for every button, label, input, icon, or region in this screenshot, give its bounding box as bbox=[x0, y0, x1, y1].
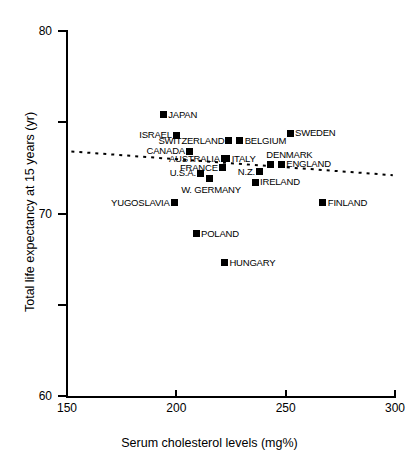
y-tick-70 bbox=[58, 213, 67, 215]
x-tick-200 bbox=[175, 390, 177, 398]
data-point-marker bbox=[160, 111, 167, 118]
data-point-label: HUNGARY bbox=[229, 258, 275, 268]
x-tick-label-250: 250 bbox=[266, 402, 306, 414]
data-point-label: SWEDEN bbox=[295, 128, 336, 138]
data-point-marker bbox=[256, 168, 263, 175]
data-point-marker bbox=[278, 161, 285, 168]
x-axis-title: Serum cholesterol levels (mg%) bbox=[0, 436, 419, 450]
data-point-label: FINLAND bbox=[328, 198, 367, 208]
data-point-label: N.Z. bbox=[238, 167, 255, 177]
y-tick-label-60: 60 bbox=[24, 390, 52, 402]
data-point-marker bbox=[171, 199, 178, 206]
data-point-marker bbox=[236, 137, 243, 144]
y-tick-minor-75 bbox=[58, 121, 67, 123]
data-point-label: SWITZERLAND bbox=[158, 136, 224, 146]
data-point-marker bbox=[219, 164, 226, 171]
x-tick-150 bbox=[66, 390, 68, 398]
data-point-label: U.S.A. bbox=[170, 168, 196, 178]
x-tick-label-300: 300 bbox=[375, 402, 415, 414]
x-tick-300 bbox=[394, 390, 396, 398]
x-axis-line bbox=[66, 396, 396, 398]
data-point-label: ENGLAND bbox=[286, 159, 331, 169]
data-point-marker bbox=[252, 179, 259, 186]
data-point-label: POLAND bbox=[201, 229, 239, 239]
x-tick-label-150: 150 bbox=[47, 402, 87, 414]
data-point-marker bbox=[223, 155, 230, 162]
data-point-label: JAPAN bbox=[168, 110, 197, 120]
data-point-marker bbox=[206, 175, 213, 182]
data-point-marker bbox=[319, 199, 326, 206]
data-point-marker bbox=[221, 259, 228, 266]
y-tick-label-80: 80 bbox=[24, 25, 52, 37]
data-point-marker bbox=[193, 230, 200, 237]
data-point-marker bbox=[197, 170, 204, 177]
y-tick-80 bbox=[58, 30, 67, 32]
y-tick-minor-65 bbox=[58, 304, 67, 306]
data-point-label: ITALY bbox=[232, 154, 256, 164]
data-point-marker bbox=[287, 130, 294, 137]
data-point-marker bbox=[267, 161, 274, 168]
x-tick-label-200: 200 bbox=[156, 402, 196, 414]
data-point-label: YUGOSLAVIA bbox=[111, 198, 170, 208]
data-point-label: IRELAND bbox=[260, 177, 300, 187]
scatter-chart: 607080 150200250300 JAPANISRAELSWEDENSWI… bbox=[0, 0, 419, 463]
data-point-label: BELGIUM bbox=[245, 136, 286, 146]
data-point-marker bbox=[225, 137, 232, 144]
data-point-label: W. GERMANY bbox=[181, 185, 241, 195]
y-axis-title: Total life expectancy at 15 years (yr) bbox=[23, 62, 37, 362]
x-tick-250 bbox=[285, 390, 287, 398]
